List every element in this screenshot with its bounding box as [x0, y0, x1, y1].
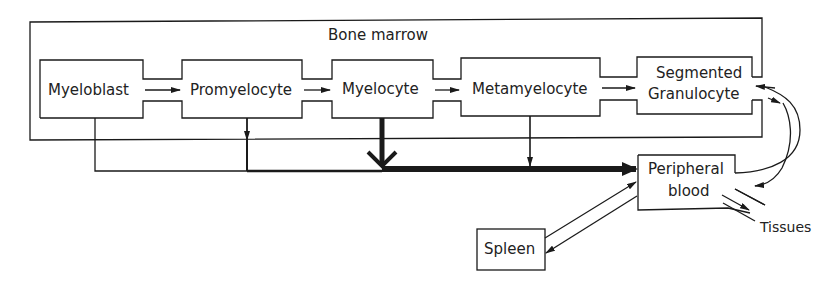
myeloblast-release-line: [95, 118, 247, 171]
bone-marrow-label: Bone marrow: [328, 26, 428, 44]
node-myelocyte: Myelocyte: [342, 80, 419, 98]
node-segmented: Segmented: [656, 64, 742, 82]
cell-chain-outline-bottom: [40, 100, 752, 118]
node-myeloblast: Myeloblast: [48, 81, 129, 99]
node-spleen: Spleen: [484, 240, 535, 258]
node-blood: blood: [668, 182, 710, 200]
node-promyelocyte: Promyelocyte: [190, 81, 292, 99]
node-tissues: Tissues: [760, 218, 811, 236]
node-metamyelocyte: Metamyelocyte: [472, 80, 588, 98]
node-granulocyte: Granulocyte: [648, 85, 740, 103]
node-peripheral: Peripheral: [648, 160, 724, 178]
